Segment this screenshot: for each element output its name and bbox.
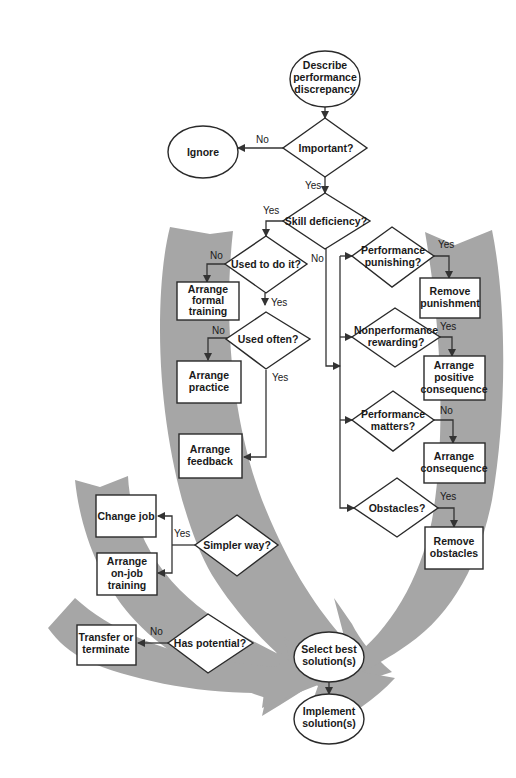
label-punishing-yes: Yes bbox=[438, 239, 454, 250]
edge-simpler-change-job bbox=[158, 516, 172, 545]
svg-text:Arrange: Arrange bbox=[434, 359, 474, 371]
node-arrange-formal-training: Arrange formal training bbox=[177, 282, 239, 320]
svg-text:Arrange: Arrange bbox=[189, 369, 229, 381]
svg-text:Arrange: Arrange bbox=[190, 443, 230, 455]
node-arrange-feedback: Arrange feedback bbox=[179, 434, 242, 478]
label-matters-no: No bbox=[440, 405, 453, 416]
svg-text:training: training bbox=[108, 579, 147, 591]
svg-text:solution(s): solution(s) bbox=[302, 655, 356, 667]
node-arrange-consequence: Arrange consequence bbox=[420, 443, 487, 483]
node-performance-matters: Performance matters? bbox=[352, 391, 434, 451]
svg-text:practice: practice bbox=[189, 381, 229, 393]
svg-text:consequence: consequence bbox=[420, 383, 487, 395]
label-important-no: No bbox=[256, 134, 269, 145]
node-arrange-positive-consequence: Arrange positive consequence bbox=[420, 356, 487, 400]
svg-text:Remove: Remove bbox=[430, 285, 471, 297]
node-implement-solution: Implement solution(s) bbox=[294, 694, 364, 744]
label-skill-no: No bbox=[311, 253, 324, 264]
node-remove-obstacles: Remove obstacles bbox=[425, 527, 483, 569]
svg-text:Performance: Performance bbox=[361, 408, 425, 420]
svg-text:Has potential?: Has potential? bbox=[174, 637, 246, 649]
svg-text:obstacles: obstacles bbox=[430, 547, 479, 559]
svg-text:training: training bbox=[189, 305, 228, 317]
node-skill-deficiency: Skill deficiency? bbox=[283, 193, 370, 249]
edge-trunk-obstacles bbox=[340, 500, 354, 508]
label-potential-no: No bbox=[150, 626, 163, 637]
edge-skill-no bbox=[326, 247, 340, 366]
svg-text:discrepancy: discrepancy bbox=[294, 83, 355, 95]
svg-text:Arrange: Arrange bbox=[434, 450, 474, 462]
svg-text:Describe: Describe bbox=[303, 59, 348, 71]
node-change-job: Change job bbox=[96, 495, 156, 537]
svg-text:Performance: Performance bbox=[361, 244, 425, 256]
label-used-often-yes: Yes bbox=[272, 372, 288, 383]
svg-text:performance: performance bbox=[293, 71, 357, 83]
edge-skill-used-to bbox=[266, 221, 283, 236]
node-select-best-solution: Select best solution(s) bbox=[294, 632, 364, 682]
svg-text:positive: positive bbox=[434, 371, 474, 383]
svg-text:terminate: terminate bbox=[82, 643, 129, 655]
svg-text:Change job: Change job bbox=[97, 510, 154, 522]
svg-text:solution(s): solution(s) bbox=[302, 717, 356, 729]
svg-text:consequence: consequence bbox=[420, 462, 487, 474]
label-nonperf-yes: Yes bbox=[440, 321, 456, 332]
svg-text:on-job: on-job bbox=[111, 567, 143, 579]
label-used-to-no: No bbox=[210, 250, 223, 261]
svg-text:Obstacles?: Obstacles? bbox=[369, 502, 426, 514]
label-used-to-yes: Yes bbox=[271, 297, 287, 308]
label-important-yes: Yes bbox=[305, 180, 321, 191]
svg-text:rewarding?: rewarding? bbox=[368, 336, 425, 348]
label-obstacles-yes: Yes bbox=[440, 491, 456, 502]
svg-text:feedback: feedback bbox=[187, 455, 233, 467]
node-arrange-on-job-training: Arrange on-job training bbox=[97, 553, 157, 595]
svg-text:Nonperformance: Nonperformance bbox=[354, 324, 438, 336]
node-arrange-practice: Arrange practice bbox=[177, 361, 241, 403]
edge-used-often-feedback bbox=[244, 370, 266, 457]
svg-text:punishment: punishment bbox=[420, 297, 480, 309]
node-describe-discrepancy: Describe performance discrepancy bbox=[290, 51, 360, 107]
flowchart-canvas: No Yes Yes No No Yes No Yes Yes No Yes Y… bbox=[0, 0, 516, 778]
svg-text:Used to do it?: Used to do it? bbox=[231, 258, 301, 270]
node-important: Important? bbox=[283, 118, 367, 177]
svg-text:Select best: Select best bbox=[301, 643, 357, 655]
label-used-often-no: No bbox=[212, 325, 225, 336]
node-remove-punishment: Remove punishment bbox=[420, 278, 480, 318]
svg-text:Ignore: Ignore bbox=[187, 146, 219, 158]
node-ignore: Ignore bbox=[168, 126, 238, 178]
svg-text:Implement: Implement bbox=[303, 705, 356, 717]
svg-text:punishing?: punishing? bbox=[365, 256, 422, 268]
svg-text:Remove: Remove bbox=[434, 535, 475, 547]
svg-text:Skill deficiency?: Skill deficiency? bbox=[285, 215, 367, 227]
label-simpler-yes: Yes bbox=[174, 528, 190, 539]
svg-text:Transfer or: Transfer or bbox=[79, 631, 134, 643]
label-skill-yes: Yes bbox=[263, 205, 279, 216]
svg-text:Arrange: Arrange bbox=[107, 555, 147, 567]
svg-text:Simpler way?: Simpler way? bbox=[203, 539, 271, 551]
svg-text:Used often?: Used often? bbox=[238, 333, 299, 345]
node-transfer-or-terminate: Transfer or terminate bbox=[77, 625, 136, 665]
svg-text:matters?: matters? bbox=[371, 420, 415, 432]
svg-text:Important?: Important? bbox=[299, 142, 354, 154]
